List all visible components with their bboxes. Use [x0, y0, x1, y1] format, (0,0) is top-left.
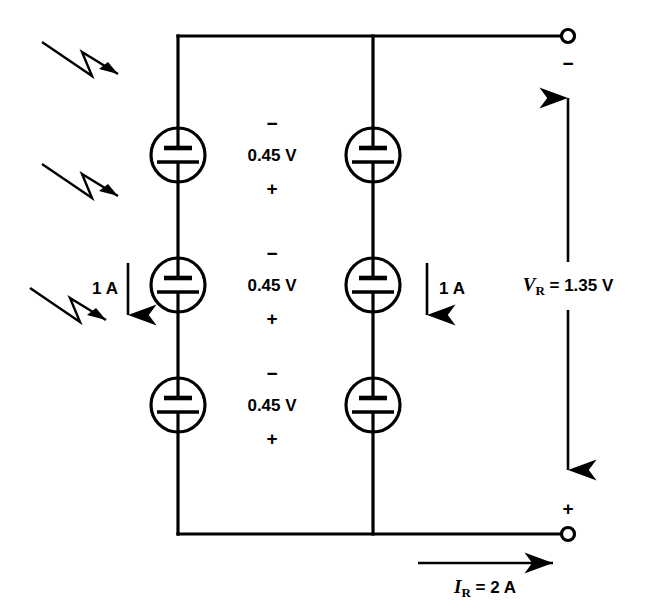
bottom-terminal-polarity: +	[562, 499, 573, 518]
left-branch-cell-2	[151, 258, 205, 312]
output-voltage-symbol: V	[523, 274, 536, 295]
cell-2-voltage-label: 0.45 V	[247, 277, 296, 294]
circuit-schematic	[0, 0, 649, 609]
cell-2-plus-sign: +	[266, 309, 277, 328]
bottom-terminal-node	[562, 528, 575, 541]
light-ray-1-icon	[42, 42, 118, 76]
light-ray-2-icon	[42, 164, 118, 198]
output-voltage-label: VR = 1.35 V	[523, 275, 614, 297]
left-branch-cell-3	[151, 378, 205, 432]
right-branch-cell-2	[346, 258, 400, 312]
left-branch-cell-1	[151, 128, 205, 182]
cell-3-plus-sign: +	[266, 429, 277, 448]
cell-1-voltage-label: 0.45 V	[247, 147, 296, 164]
cell-3-minus-sign: −	[266, 364, 277, 383]
cell-1-plus-sign: +	[266, 179, 277, 198]
output-current-subscript: R	[461, 585, 470, 600]
cell-1-minus-sign: −	[266, 114, 277, 133]
right-branch-current-label: 1 A	[439, 280, 465, 297]
cell-3-voltage-label: 0.45 V	[247, 397, 296, 414]
output-current-value: = 2 A	[471, 578, 516, 597]
output-voltage-value: = 1.35 V	[545, 276, 614, 295]
cell-2-minus-sign: −	[266, 244, 277, 263]
left-branch-current-label: 1 A	[92, 280, 118, 297]
output-current-label: IR = 2 A	[454, 577, 516, 599]
output-voltage-subscript: R	[535, 283, 544, 298]
right-branch-cell-3	[346, 378, 400, 432]
top-terminal-polarity: −	[562, 54, 573, 73]
circuit-diagram-canvas: − 0.45 V + − 0.45 V + − 0.45 V + 1 A 1 A…	[0, 0, 649, 609]
top-terminal-node	[562, 30, 575, 43]
right-branch-cell-1	[346, 128, 400, 182]
